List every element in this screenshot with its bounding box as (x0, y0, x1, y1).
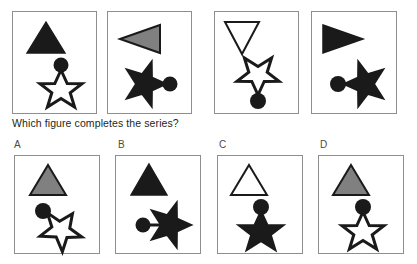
circle-shape (250, 93, 266, 109)
series-panel-1[interactable] (12, 11, 97, 114)
option-label-c: C (219, 139, 226, 151)
series-panel-3[interactable] (214, 11, 299, 114)
circle-shape (136, 218, 151, 233)
triangle-shape (322, 24, 364, 54)
circle-shape (54, 58, 69, 73)
option-panel-a[interactable] (14, 155, 100, 254)
circle-shape (330, 76, 346, 92)
star-circle-group (116, 60, 186, 108)
triangle-shape (130, 163, 168, 196)
star-circle-group (334, 196, 392, 254)
circle-shape (355, 199, 371, 215)
triangle-shape (230, 164, 268, 196)
series-panel-4[interactable] (311, 11, 397, 114)
star-circle-group (232, 196, 290, 254)
circle-shape (35, 203, 51, 219)
question-text: Which figure completes the series? (12, 117, 179, 130)
star-circle-group (230, 54, 286, 114)
star-circle-group (27, 196, 89, 254)
option-panel-d[interactable] (318, 155, 404, 254)
option-label-a: A (14, 139, 21, 151)
triangle-shape (29, 164, 67, 196)
option-label-d: D (320, 139, 327, 151)
star-circle-group (35, 54, 87, 112)
star-circle-group (320, 60, 392, 108)
option-label-b: B (118, 139, 125, 151)
triangle-shape (119, 24, 161, 54)
series-panel-2[interactable] (107, 11, 192, 114)
star-circle-group (126, 200, 198, 250)
triangle-shape (332, 164, 370, 196)
triangle-shape (26, 21, 66, 54)
circle-shape (253, 199, 269, 215)
triangle-shape (224, 21, 260, 55)
option-panel-b[interactable] (115, 155, 201, 254)
circle-shape (163, 77, 178, 92)
option-panel-c[interactable] (217, 155, 303, 254)
